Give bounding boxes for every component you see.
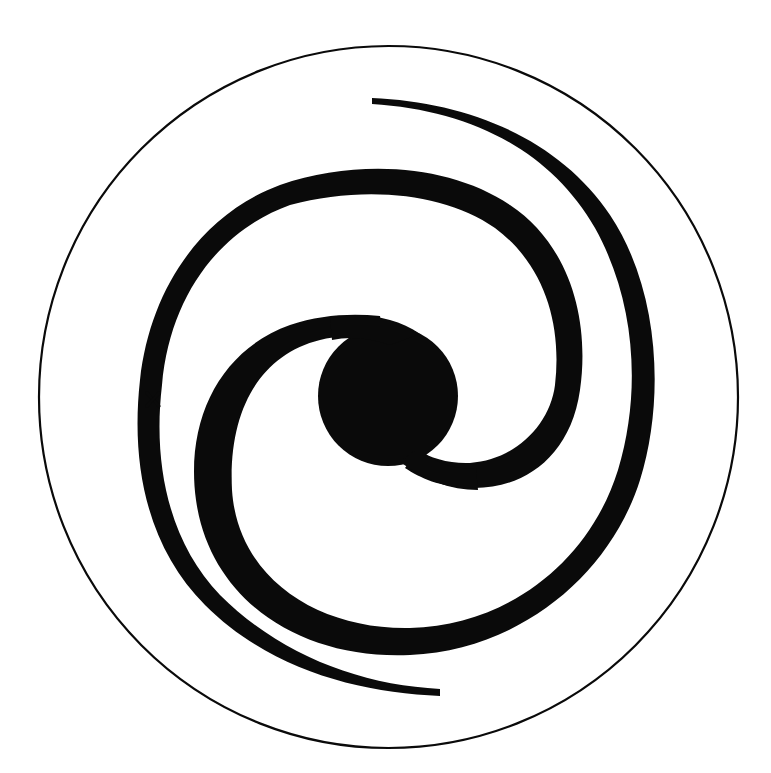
galactic-nucleus bbox=[318, 326, 458, 466]
spiral-galaxy-diagram bbox=[0, 0, 771, 773]
nucleus-arm-b-junction bbox=[400, 448, 478, 490]
